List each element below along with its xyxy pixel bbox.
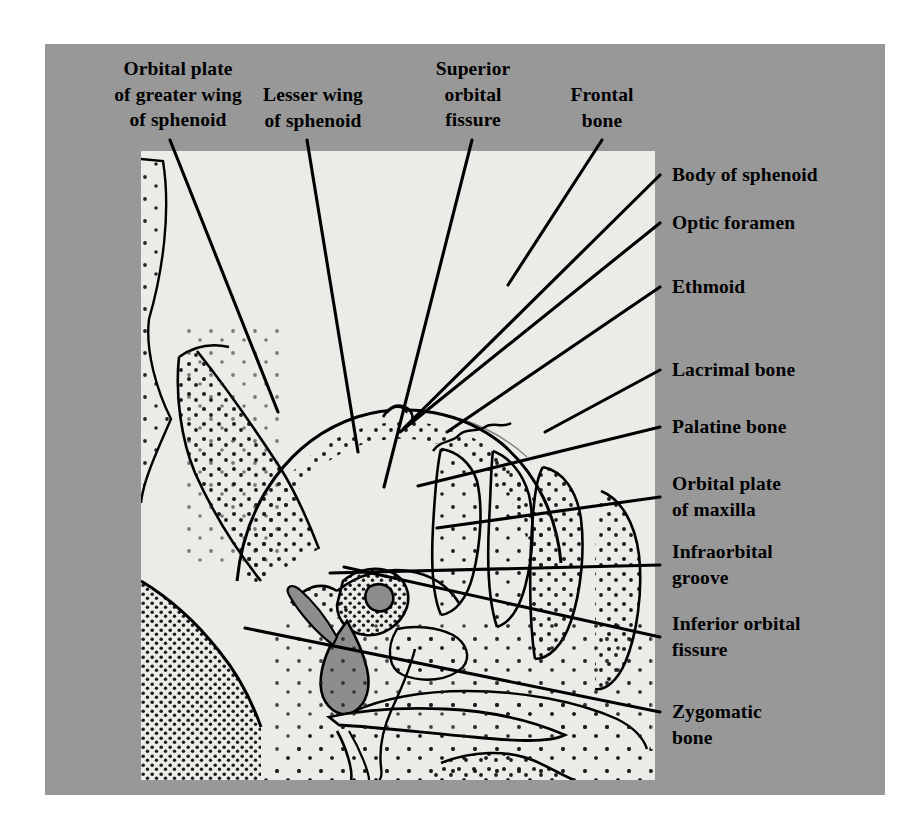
orbit-illustration-panel <box>141 151 655 780</box>
label-inferior-orbital-fissure: Inferior orbital fissure <box>672 611 887 662</box>
label-infraorbital-groove: Infraorbital groove <box>672 539 882 590</box>
label-frontal-bone: Frontal bone <box>552 82 652 133</box>
label-zygomatic-bone: Zygomatic bone <box>672 699 882 750</box>
label-lesser-wing-of-sphenoid: Lesser wing of sphenoid <box>238 82 388 133</box>
label-palatine-bone: Palatine bone <box>672 414 882 440</box>
label-body-of-sphenoid: Body of sphenoid <box>672 162 882 188</box>
label-superior-orbital-fissure: Superior orbital fissure <box>410 56 536 133</box>
orbit-line-art <box>141 151 655 780</box>
label-optic-foramen: Optic foramen <box>672 210 882 236</box>
label-orbital-plate-of-maxilla: Orbital plate of maxilla <box>672 471 882 522</box>
label-ethmoid: Ethmoid <box>672 274 882 300</box>
label-lacrimal-bone: Lacrimal bone <box>672 357 882 383</box>
orbit-anatomy-figure: Orbital plate of greater wing of sphenoi… <box>0 0 924 825</box>
